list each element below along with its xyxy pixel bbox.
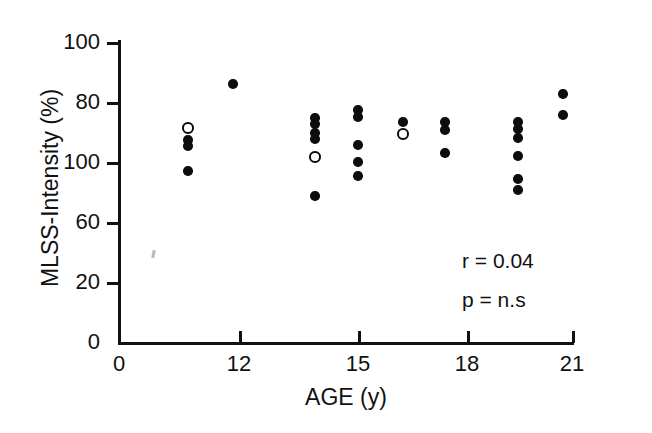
correlation-annotation: r = 0.04	[462, 249, 534, 273]
data-point-filled	[183, 166, 193, 176]
y-tick-mark	[107, 102, 119, 105]
x-tick-label: 12	[209, 352, 269, 376]
data-point-filled	[353, 140, 363, 150]
data-point-filled	[558, 110, 568, 120]
y-tick-mark	[107, 222, 119, 225]
scatter-plot-figure: 100 80 100 60 20 0 0 12 15 18 21 MLSS-In…	[0, 0, 652, 433]
data-point-filled	[558, 89, 568, 99]
x-axis-title: AGE (y)	[118, 384, 574, 410]
x-tick-label: 0	[89, 352, 149, 376]
data-point-filled	[353, 157, 363, 167]
x-axis-line	[118, 342, 574, 345]
data-point-filled	[398, 117, 408, 127]
significance-annotation: p = n.s	[462, 288, 526, 312]
y-axis-line	[118, 40, 121, 345]
y-tick-mark	[107, 162, 119, 165]
data-point-open	[397, 128, 409, 140]
y-axis-title: MLSS-Intensity (%)	[37, 38, 63, 338]
y-tick-mark	[107, 282, 119, 285]
x-tick-label: 18	[437, 352, 497, 376]
x-tick-mark	[572, 331, 575, 343]
x-tick-mark	[239, 331, 242, 343]
data-point-filled	[440, 125, 450, 135]
data-point-filled	[310, 191, 320, 201]
x-tick-label: 15	[328, 352, 388, 376]
data-point-filled	[228, 79, 238, 89]
y-tick-mark	[107, 42, 119, 45]
data-point-filled	[353, 112, 363, 122]
data-point-filled	[440, 148, 450, 158]
x-tick-label: 21	[542, 352, 602, 376]
x-tick-mark	[467, 331, 470, 343]
x-tick-mark	[358, 331, 361, 343]
data-point-filled	[513, 174, 523, 184]
data-point-open	[182, 122, 194, 134]
data-point-open	[309, 151, 321, 163]
scan-speck	[151, 250, 156, 258]
data-point-filled	[513, 151, 523, 161]
data-point-filled	[513, 185, 523, 195]
data-point-filled	[183, 141, 193, 151]
data-point-filled	[353, 171, 363, 181]
data-point-filled	[310, 134, 320, 144]
data-point-filled	[513, 133, 523, 143]
